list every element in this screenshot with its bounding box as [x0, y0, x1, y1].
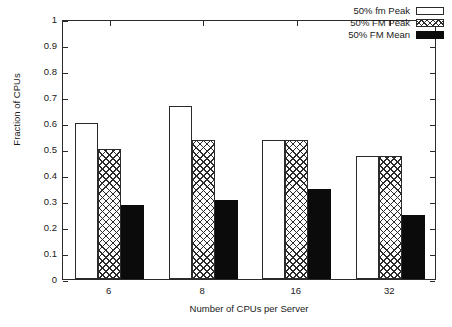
- y-axis-tick-label: 1: [52, 15, 57, 25]
- y-axis-tick-label: 0.4: [44, 171, 57, 181]
- bar: [285, 140, 308, 279]
- legend-swatch-crosshatch-icon: [416, 19, 444, 27]
- y-axis-tick-label: 0.5: [44, 145, 57, 155]
- bar: [215, 200, 238, 279]
- y-axis-tick-mark: [430, 229, 435, 230]
- bar: [308, 189, 331, 279]
- legend-label: 50% FM Peak: [350, 17, 410, 28]
- bar: [121, 205, 144, 279]
- legend-item: 50% fm Peak: [348, 5, 444, 16]
- y-axis-tick-mark: [430, 99, 435, 100]
- y-axis-tick-mark: [63, 125, 68, 126]
- y-axis-title: Fraction of CPUs: [11, 40, 22, 180]
- y-axis-tick-mark: [430, 125, 435, 126]
- bar: [356, 156, 379, 279]
- legend-label: 50% FM Mean: [348, 29, 410, 40]
- y-axis-tick-labels: 00.10.20.30.40.50.60.70.80.91: [0, 0, 57, 327]
- y-axis-tick-mark: [63, 177, 68, 178]
- y-axis-tick-mark: [63, 151, 68, 152]
- legend-item: 50% FM Peak: [348, 17, 444, 28]
- y-axis-tick-mark: [63, 281, 68, 282]
- bar: [262, 140, 285, 279]
- y-axis-tick-mark: [63, 21, 68, 22]
- y-axis-tick-mark: [430, 151, 435, 152]
- y-axis-tick-label: 0.3: [44, 197, 57, 207]
- bar: [192, 140, 215, 279]
- y-axis-tick-mark: [430, 281, 435, 282]
- y-axis-tick-mark: [63, 47, 68, 48]
- chart-legend: 50% fm Peak 50% FM Peak 50% FM Mean: [346, 4, 446, 41]
- y-axis-tick-mark: [430, 203, 435, 204]
- y-axis-tick-mark: [63, 229, 68, 230]
- x-axis-tick-label: 32: [384, 285, 395, 296]
- y-axis-tick-label: 0.7: [44, 93, 57, 103]
- x-axis-title: Number of CPUs per Server: [62, 303, 436, 314]
- x-axis-tick-mark: [297, 21, 298, 26]
- legend-label: 50% fm Peak: [354, 5, 411, 16]
- y-axis-tick-label: 0.6: [44, 119, 57, 129]
- bar: [75, 123, 98, 279]
- x-axis-tick-label: 6: [106, 285, 111, 296]
- y-axis-tick-mark: [63, 203, 68, 204]
- y-axis-tick-label: 0.2: [44, 223, 57, 233]
- y-axis-tick-mark: [63, 255, 68, 256]
- y-axis-tick-label: 0.9: [44, 41, 57, 51]
- y-axis-tick-label: 0.8: [44, 67, 57, 77]
- x-axis-tick-mark: [203, 21, 204, 26]
- x-axis-tick-mark: [110, 21, 111, 26]
- bar: [98, 149, 121, 279]
- y-axis-tick-mark: [430, 255, 435, 256]
- y-axis-tick-mark: [430, 47, 435, 48]
- legend-swatch-solid-black-icon: [416, 31, 444, 39]
- y-axis-tick-mark: [63, 99, 68, 100]
- y-axis-tick-mark: [430, 73, 435, 74]
- plot-area: [62, 20, 436, 280]
- y-axis-tick-label: 0.1: [44, 249, 57, 259]
- x-axis-tick-label: 16: [290, 285, 301, 296]
- bar: [169, 106, 192, 279]
- bar-chart-figure: 00.10.20.30.40.50.60.70.80.91 Fraction o…: [0, 0, 452, 327]
- y-axis-tick-label: 0: [52, 275, 57, 285]
- y-axis-tick-mark: [430, 177, 435, 178]
- bar: [402, 215, 425, 279]
- x-axis-tick-label: 8: [200, 285, 205, 296]
- y-axis-tick-mark: [63, 73, 68, 74]
- bar: [379, 156, 402, 279]
- legend-swatch-open-white-icon: [416, 7, 444, 15]
- legend-item: 50% FM Mean: [348, 29, 444, 40]
